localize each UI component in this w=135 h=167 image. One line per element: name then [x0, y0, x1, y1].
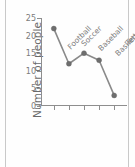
x-axis-tick [114, 106, 115, 110]
x-axis-tick [69, 106, 70, 110]
data-point-marker [66, 61, 71, 66]
series-markers [51, 26, 116, 98]
y-axis-tick [37, 106, 41, 107]
y-axis-tick-label: 15 [26, 49, 36, 58]
data-series [41, 18, 127, 106]
x-axis-tick [99, 106, 100, 110]
y-axis-tick-label: 20 [26, 31, 36, 40]
line-chart-figure: Number of people 0510152025 FootballSocc… [8, 0, 127, 167]
y-axis-tick-label: 10 [26, 66, 36, 75]
data-point-marker [112, 93, 117, 98]
x-axis-tick [54, 106, 55, 110]
page-right-border [128, 0, 129, 167]
x-axis-tick [84, 106, 85, 110]
page-left-border [5, 0, 6, 167]
data-point-marker [82, 51, 87, 56]
plot-area: 0510152025 FootballSoccerBaseballBasketb… [41, 18, 127, 106]
data-point-marker [51, 26, 56, 31]
data-point-marker [97, 58, 102, 63]
page-canvas: Number of people 0510152025 FootballSocc… [0, 0, 135, 167]
y-axis-tick-label: 25 [26, 14, 36, 23]
y-axis-tick-label: 0 [31, 102, 36, 111]
y-axis-tick-label: 5 [31, 84, 36, 93]
series-line [54, 29, 114, 96]
